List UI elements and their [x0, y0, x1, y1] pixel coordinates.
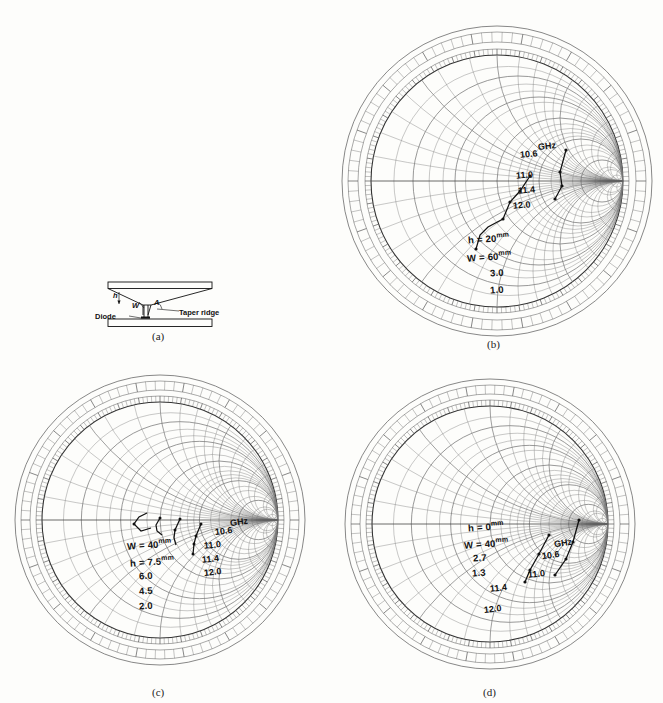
- smith-chart-panel-c: GHz 10.6 11.0 11.4 12.0 W = 40mm h = 7.5…: [12, 372, 308, 668]
- annotation-b-3: 1.0: [490, 284, 505, 296]
- caption-panel-c: (c): [152, 686, 164, 698]
- caption-panel-b: (b): [487, 338, 500, 350]
- freq-marker-d-0: 10.6: [542, 549, 560, 561]
- caption-panel-a: (a): [152, 330, 164, 342]
- freq-marker-c-3: 12.0: [204, 566, 222, 578]
- caption-panel-d: (d): [483, 686, 496, 698]
- chart-grid-c: [12, 372, 308, 668]
- annotation-c-2: 6.0: [139, 570, 154, 582]
- locus-c-6p0: [174, 519, 180, 545]
- freq-marker-b-0: 10.6: [520, 148, 538, 159]
- annotation-d-3: 1.3: [472, 567, 487, 579]
- label-taper-ridge: Taper ridge: [179, 308, 219, 317]
- freq-marker-c-0: 10.6: [215, 525, 233, 537]
- freq-marker-d-3: 12.0: [484, 603, 502, 615]
- freq-marker-d-1: 11.0: [528, 568, 546, 580]
- schematic-panel-a: h W A Diode Taper ridge: [95, 281, 230, 329]
- annotation-b-2: 3.0: [490, 267, 505, 279]
- freq-marker-c-1: 11.0: [204, 539, 222, 551]
- schematic-svg-a: [95, 281, 230, 329]
- freq-marker-c-2: 11.4: [202, 553, 220, 565]
- locus-c-2p0: [134, 513, 151, 531]
- label-a: A: [154, 298, 159, 307]
- freq-marker-b-1: 11.0: [516, 169, 534, 180]
- freq-unit-label-b: GHz: [538, 140, 557, 152]
- freq-marker-d-2: 11.4: [490, 582, 508, 594]
- label-diode: Diode: [95, 312, 116, 321]
- label-w: W: [132, 301, 139, 310]
- freq-marker-b-3: 12.0: [513, 199, 531, 210]
- freq-marker-b-2: 11.4: [518, 184, 536, 195]
- annotation-d-2: 2.7: [473, 552, 488, 564]
- annotation-c-4: 2.0: [139, 600, 154, 612]
- smith-chart-panel-b: GHz 10.6 11.0 11.4 12.0 h = 20mm W = 60m…: [338, 22, 656, 340]
- annotation-d-0: h = 0mm: [468, 519, 505, 534]
- smith-chart-panel-d: GHz 10.6 11.0 11.4 12.0 h = 0mm W = 40mm…: [342, 376, 638, 672]
- annotation-c-3: 4.5: [139, 585, 154, 597]
- label-h: h: [113, 291, 118, 300]
- smith-chart-svg-c: [12, 372, 308, 668]
